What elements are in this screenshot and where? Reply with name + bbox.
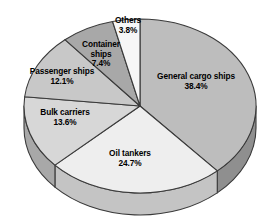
pie-chart-figure: General cargo ships38.4%Oil tankers24.7%… xyxy=(0,0,266,224)
pie-chart-svg xyxy=(0,0,266,224)
